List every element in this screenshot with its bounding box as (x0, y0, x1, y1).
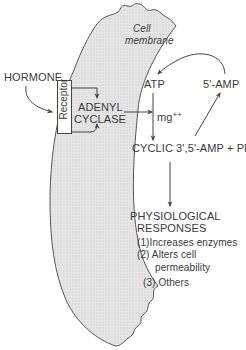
membrane-label-line2: membrane (125, 35, 174, 46)
response-text: Alters cell (152, 249, 196, 260)
camp-to-5amp-arrow (195, 93, 220, 136)
response-item-3: (3) Others (143, 277, 189, 288)
mg-superscript: ++ (172, 110, 182, 119)
response-item-2-cont: permeability (155, 262, 210, 273)
response-number: (3) (143, 277, 156, 288)
response-item-2: (2) Alters cell (137, 249, 196, 260)
5amp-label: 5'-AMP (203, 79, 239, 90)
mg-text: mg (157, 111, 172, 123)
mg-cofactor-label: mg++ (157, 109, 182, 123)
diagram-canvas (0, 0, 246, 350)
hormone-arrow (26, 86, 52, 112)
adenyl-cyclase-line1: ADENYL (78, 102, 123, 113)
response-number: (2) (137, 249, 150, 260)
cell-membrane-shape (50, 4, 176, 346)
response-number: (1) (137, 237, 150, 248)
receptor-label: Receptor (58, 94, 69, 120)
hormone-label: HORMONE (4, 72, 62, 83)
response-text: Others (158, 277, 189, 288)
response-item-1: (1)Increases enzymes (137, 237, 237, 248)
responses-title-line2: RESPONSES (137, 223, 206, 234)
membrane-label-line1: Cell (133, 23, 151, 34)
adenyl-cyclase-line2: CYCLASE (74, 114, 126, 125)
atp-label: ATP (144, 79, 165, 90)
5amp-to-atp-arrow (158, 54, 225, 74)
response-text: Increases enzymes (150, 237, 238, 248)
cyclic-amp-label: CYCLIC 3',5'-AMP + PPi (132, 143, 246, 154)
responses-title-line1: PHYSIOLOGICAL (130, 211, 221, 222)
